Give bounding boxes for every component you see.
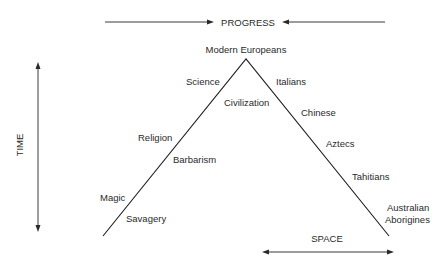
apex-label: Modern Europeans <box>206 44 287 55</box>
label-science: Science <box>186 76 220 87</box>
label-savagery: Savagery <box>126 213 166 224</box>
label-aborigines: Aborigines <box>385 214 430 225</box>
label-barbarism: Barbarism <box>173 154 216 165</box>
label-chinese: Chinese <box>301 107 336 118</box>
arrowhead-up-icon <box>36 62 41 69</box>
arrowhead-right-icon <box>387 250 394 255</box>
label-civilization: Civilization <box>224 97 269 108</box>
label-tahitians: Tahitians <box>352 171 390 182</box>
label-religion: Religion <box>138 132 172 143</box>
space-axis <box>262 250 394 255</box>
time-label: TIME <box>14 134 25 157</box>
label-australian: Australian <box>387 202 429 213</box>
label-aztecs: Aztecs <box>326 138 355 149</box>
time-axis <box>36 62 41 232</box>
label-italians: Italians <box>276 76 306 87</box>
progress-label: PROGRESS <box>221 17 275 28</box>
arrowhead-right-icon <box>207 20 214 25</box>
progress-triangle-diagram: PROGRESS TIME Modern Europeans Science R… <box>0 0 447 260</box>
space-label: SPACE <box>311 233 343 244</box>
arrowhead-left-icon <box>262 250 269 255</box>
label-magic: Magic <box>100 192 126 203</box>
arrowhead-left-icon <box>282 20 289 25</box>
arrowhead-down-icon <box>36 225 41 232</box>
